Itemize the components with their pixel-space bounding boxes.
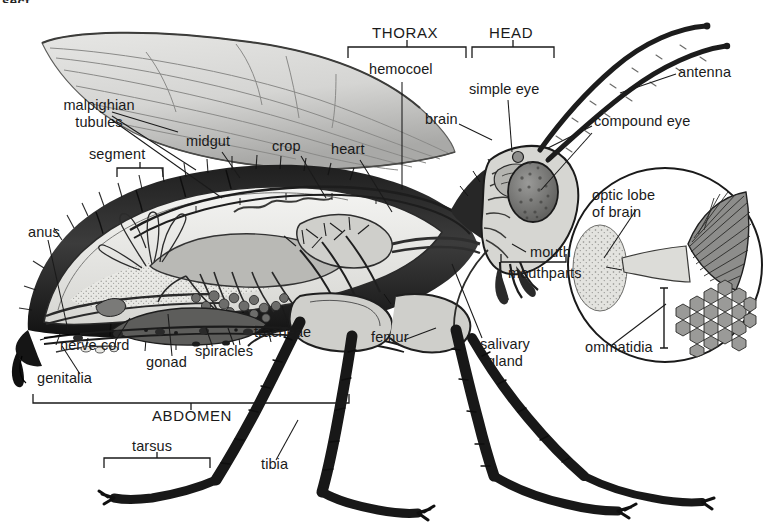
part-label-tibia: tibia xyxy=(261,457,288,472)
region-label-thorax: THORAX xyxy=(372,26,438,41)
part-label-tracheae: tracheae xyxy=(254,325,311,340)
part-label-anus: anus xyxy=(28,225,60,240)
region-label-abdomen: ABDOMEN xyxy=(152,409,232,424)
part-label-brain: brain xyxy=(425,112,458,127)
part-label-gonad: gonad xyxy=(146,355,187,370)
diagram-canvas: sect xyxy=(0,0,763,530)
part-label-segment: segment xyxy=(89,147,145,162)
part-label-heart: heart xyxy=(331,142,365,157)
part-label-ommatidia: ommatidia xyxy=(585,340,653,355)
part-label-mouthparts: mouthparts xyxy=(508,266,582,281)
part-label-crop: crop xyxy=(272,139,301,154)
insect-anatomy-illustration xyxy=(0,0,763,530)
part-label-mouth: mouth xyxy=(530,245,571,260)
part-label-salivary-gland: salivary gland xyxy=(469,336,541,370)
region-label-head: HEAD xyxy=(489,26,533,41)
part-label-nerve-cord: nerve cord xyxy=(60,338,130,353)
part-label-genitalia: genitalia xyxy=(37,371,92,386)
part-label-simple-eye: simple eye xyxy=(469,82,539,97)
part-label-femur: femur xyxy=(371,330,409,345)
part-label-compound-eye: compound eye xyxy=(594,114,690,129)
part-label-optic-lobe: optic lobe of brain xyxy=(592,187,655,221)
antennae-graphic xyxy=(540,23,730,160)
part-label-antenna: antenna xyxy=(678,65,731,80)
part-label-spiracles: spiracles xyxy=(195,344,253,359)
part-label-hemocoel: hemocoel xyxy=(369,62,433,77)
part-label-midgut: midgut xyxy=(186,134,230,149)
part-label-tarsus: tarsus xyxy=(132,439,172,454)
part-label-malpighian-tubules: malpighian tubules xyxy=(46,97,152,131)
